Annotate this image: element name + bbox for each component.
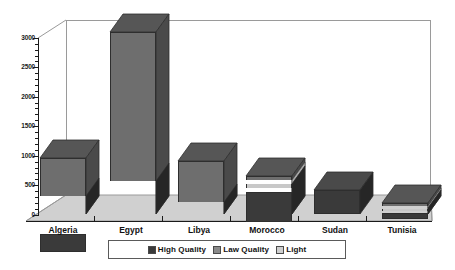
legend: High Quality Law Quality Light — [108, 240, 346, 259]
y-minor-tick — [35, 79, 39, 80]
y-tick-label-1000: 1000 — [5, 152, 35, 159]
segment-high-quality — [382, 213, 428, 219]
y-tick-label-1500: 1500 — [5, 122, 35, 129]
y-minor-tick — [35, 203, 39, 204]
y-minor-tick — [35, 50, 39, 51]
segment-high-quality — [314, 190, 360, 214]
y-minor-tick — [35, 108, 39, 109]
y-minor-tick — [35, 197, 39, 198]
y-minor-tick — [35, 91, 39, 92]
segment-light — [246, 184, 292, 188]
segment-law-quality — [178, 161, 224, 202]
y-minor-tick — [35, 120, 39, 121]
legend-swatch-light — [276, 246, 284, 254]
legend-label-high-quality: High Quality — [158, 245, 206, 254]
y-tick-label-500: 500 — [5, 181, 35, 188]
x-label-egypt: Egypt — [98, 225, 164, 235]
segment-high-quality — [246, 192, 292, 222]
y-minor-tick — [35, 162, 39, 163]
legend-item-high-quality[interactable]: High Quality — [148, 245, 206, 254]
x-label-libya: Libya — [166, 225, 232, 235]
x-label-algeria: Algeria — [30, 225, 96, 235]
y-minor-tick — [35, 132, 39, 133]
y-minor-tick — [35, 114, 39, 115]
y-minor-tick — [35, 150, 39, 151]
legend-item-light[interactable]: Light — [276, 245, 306, 254]
x-label-morocco: Morocco — [232, 225, 302, 235]
y-minor-tick — [35, 191, 39, 192]
y-minor-tick — [35, 44, 39, 45]
y-minor-tick — [35, 85, 39, 86]
y-tick-label-2500: 2500 — [5, 63, 35, 70]
segment-law-quality — [246, 176, 292, 180]
y-minor-tick — [35, 56, 39, 57]
legend-swatch-law-quality — [213, 246, 221, 254]
y-minor-tick — [35, 73, 39, 74]
chart-container: 3000 2500 2000 1500 1000 500 0 — [0, 0, 455, 270]
y-tick-label-3000: 3000 — [5, 34, 35, 41]
y-minor-tick — [35, 103, 39, 104]
y-minor-tick — [35, 61, 39, 62]
segment-high-quality — [40, 234, 86, 252]
legend-label-light: Light — [286, 245, 306, 254]
segment-light — [382, 209, 428, 211]
segment-law-quality — [110, 32, 156, 181]
legend-swatch-high-quality — [148, 246, 156, 254]
x-label-tunisia: Tunisia — [368, 225, 436, 235]
legend-label-law-quality: Law Quality — [223, 245, 269, 254]
y-minor-tick — [35, 173, 39, 174]
y-tick-label-2000: 2000 — [5, 93, 35, 100]
y-minor-tick — [35, 179, 39, 180]
segment-law-quality — [40, 158, 86, 196]
y-minor-tick — [35, 168, 39, 169]
y-minor-tick — [35, 144, 39, 145]
y-minor-tick — [35, 209, 39, 210]
segment-law-quality — [382, 203, 428, 206]
x-label-sudan: Sudan — [302, 225, 368, 235]
y-tick-label-0: 0 — [5, 211, 35, 218]
y-minor-tick — [35, 138, 39, 139]
legend-item-law-quality[interactable]: Law Quality — [213, 245, 269, 254]
